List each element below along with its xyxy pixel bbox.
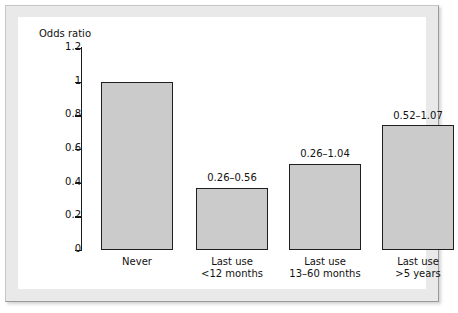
x-category-label-never: Never xyxy=(91,256,183,268)
bar-label-last-use-under-12-months: 0.26–0.56 xyxy=(181,172,283,183)
bar-label-last-use-13-60-months: 0.26–1.04 xyxy=(274,148,376,159)
y-tick-label-1: 0.2 xyxy=(41,209,81,220)
bar-last-use-under-12-months xyxy=(196,188,268,250)
y-axis-title: Odds ratio xyxy=(39,28,91,39)
y-axis-line xyxy=(81,47,82,251)
y-tick-label-3: 0.6 xyxy=(41,142,81,153)
y-tick-label-5: 1 xyxy=(41,75,81,86)
bar-label-last-use-over-5-years: 0.52–1.07 xyxy=(367,110,458,121)
x-category-label-last-use-over-5-years: Last use >5 years xyxy=(369,256,458,280)
bar-last-use-13-60-months xyxy=(289,164,361,250)
x-category-label-last-use-under-12-months: Last use <12 months xyxy=(181,256,283,280)
x-category-label-last-use-13-60-months: Last use 13–60 months xyxy=(272,256,378,280)
y-tick-label-6: 1.2 xyxy=(41,41,81,52)
y-tick-label-0: 0 xyxy=(41,243,81,254)
bar-never xyxy=(101,82,173,250)
y-tick-label-4: 0.8 xyxy=(41,108,81,119)
bar-last-use-over-5-years xyxy=(382,125,454,250)
y-tick-label-2: 0.4 xyxy=(41,176,81,187)
